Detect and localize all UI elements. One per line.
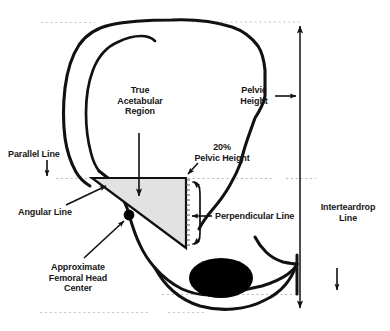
label-angular-line: Angular Line: [18, 207, 98, 218]
label-approximate-femoral-head-center: Approximate Femoral Head Center: [23, 262, 133, 294]
label-parallel-line: Parallel Line: [8, 149, 88, 160]
femoral-head-center-dot: [124, 210, 135, 221]
label-pelvic-height: Pelvic Height: [232, 85, 276, 106]
twenty-percent-pelvic-height-leader: [188, 163, 198, 174]
pelvic-measurement-diagram: True Acetabular Region Pelvic Height 20%…: [0, 0, 390, 331]
label-twenty-percent-pelvic-height: 20% Pelvic Height: [182, 142, 262, 163]
leader-arrows-group: [47, 96, 337, 290]
angular-line-leader: [66, 186, 106, 205]
obturator-foramen: [189, 258, 253, 298]
twenty-percent-bracket: [193, 182, 200, 244]
superior-pelvic-dotted-line: [41, 22, 300, 23]
approximate-femoral-head-center-leader: [84, 221, 124, 258]
label-true-acetabular-region: True Acetabular Region: [100, 85, 180, 117]
label-interteardrop-line: Interteardrop Line: [310, 202, 386, 223]
